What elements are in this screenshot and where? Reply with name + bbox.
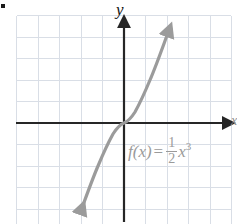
function-name-text: f(x): [128, 143, 152, 160]
fraction-numerator: 1: [166, 136, 177, 151]
equals-sign: =: [154, 143, 164, 160]
graph-figure: y x f(x) = 1 2 x 3: [0, 0, 237, 224]
fraction-denominator: 2: [166, 152, 177, 167]
variable-x: x: [178, 143, 186, 160]
function-equation-label: f(x) = 1 2 x 3: [128, 136, 191, 166]
exponent-three: 3: [186, 141, 192, 152]
y-axis-label: y: [116, 1, 124, 18]
fraction-one-half: 1 2: [166, 136, 177, 166]
coordinate-plane: [0, 0, 237, 224]
x-axis-label: x: [231, 114, 237, 128]
